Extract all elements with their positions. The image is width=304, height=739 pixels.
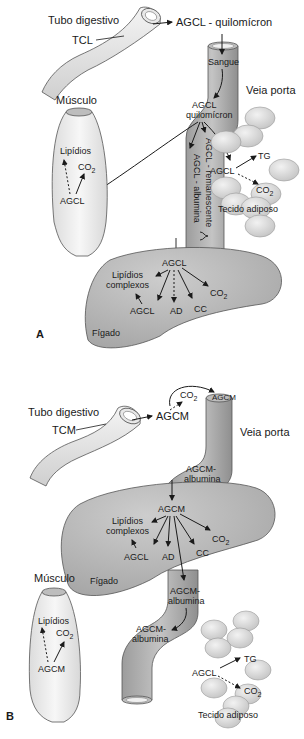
gut-output-b: AGCM: [156, 410, 189, 422]
carrier-line2-a: quilomícron: [186, 110, 233, 120]
muscle-source-a: AGCL: [60, 196, 85, 206]
adipose-source-b: AGCL: [192, 668, 217, 678]
gut-label-a: Tubo digestivo: [48, 14, 119, 26]
adipose-label-b: Tecido adiposo: [198, 710, 258, 720]
arrow-adipose-tg-a: [236, 156, 256, 168]
muscle-lipids-b: Lipídios: [38, 616, 70, 626]
lipid-metabolism-diagram: Tubo digestivo TCL AGCL - quilomícron Sa…: [0, 0, 304, 739]
arrow-oxidation-co2-b: [170, 402, 182, 410]
liver-lipids-line2-b: complexos: [106, 526, 150, 536]
liver-source-b: AGCM: [158, 504, 185, 514]
liver-label-b: Fígado: [90, 576, 118, 586]
outflow-line2-b-b: albumina: [132, 634, 169, 644]
liver-agcl-b: AGCL: [124, 552, 149, 562]
adipose-source-a: AGCL: [210, 166, 235, 176]
panel-b: Tubo digestivo TCM AGCM CO2 AGCM Veia po…: [6, 386, 290, 728]
blood-label-a: Sangue: [208, 57, 239, 67]
gut-substrate-b: TCM: [52, 424, 76, 436]
panel-a: Tubo digestivo TCL AGCL - quilomícron Sa…: [36, 5, 299, 347]
liver-lipids-line1-b: Lipídios: [112, 516, 144, 526]
carrier-line1-b: AGCM-: [186, 464, 216, 474]
liver-lipids-line2-a: complexos: [106, 280, 150, 290]
outflow-line1-a-b: AGCM-: [170, 586, 200, 596]
gut-output-a: AGCL - quilomícron: [176, 16, 272, 28]
liver-lipids-line1-a: Lipídios: [112, 270, 144, 280]
adipose-tg-a: TG: [258, 151, 271, 161]
outflow-line1-b-b: AGCM-: [136, 624, 166, 634]
muscle-a: [52, 108, 107, 256]
remnant-label-a: AGCL - remanescente: [204, 138, 214, 227]
gut-substrate-a: TCL: [72, 34, 93, 46]
liver-cc-a: CC: [194, 304, 207, 314]
liver-label-a: Fígado: [92, 328, 120, 338]
liver-source-a: AGCL: [162, 258, 187, 268]
muscle-lipids-a: Lipídios: [60, 146, 92, 156]
panel-letter-a: A: [36, 328, 44, 340]
adipose-label-a: Tecido adiposo: [218, 204, 278, 214]
adipose-tg-b: TG: [244, 654, 257, 664]
muscle-label-b: Músculo: [34, 572, 75, 584]
arrow-adipose-tg-b: [220, 658, 240, 668]
liver-agcl-a: AGCL: [130, 306, 155, 316]
carrier-line1-a: AGCL: [192, 100, 217, 110]
albumin-label-a: AGCL - albumina: [192, 154, 202, 223]
liver-ad-b: AD: [162, 552, 175, 562]
panel-letter-b: B: [6, 710, 14, 722]
muscle-source-b: AGCM: [38, 664, 65, 674]
vein-label-b: Veia porta: [240, 426, 290, 438]
muscle-label-a: Músculo: [56, 94, 97, 106]
arrow-adipose-co2-a: [238, 174, 258, 184]
vein-opening-text-b: AGCM: [212, 393, 236, 402]
muscle-b: [29, 588, 80, 722]
vein-label-a: Veia porta: [246, 84, 296, 96]
outflow-line2-a-b: albumina: [168, 596, 205, 606]
liver-cc-b: CC: [196, 548, 209, 558]
oxidation-co2-b: CO2: [180, 390, 198, 402]
liver-ad-a: AD: [170, 306, 183, 316]
gut-label-b: Tubo digestivo: [28, 406, 99, 418]
